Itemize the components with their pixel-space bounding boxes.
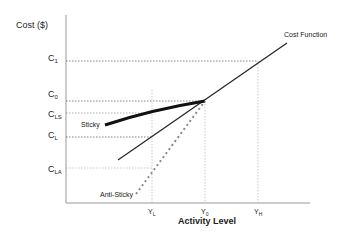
y-label-cla: CLA: [48, 164, 62, 175]
sticky-label: Sticky: [81, 121, 100, 129]
y-label-c1: C1: [48, 53, 59, 64]
x-label-yl: YL: [148, 208, 156, 217]
y-label-c0: C0: [48, 89, 59, 100]
cost-function-label: Cost Function: [284, 31, 327, 38]
y-label-cls: CLS: [48, 109, 62, 120]
cost-behavior-diagram: Cost ($) Activity Level C1 C0 CLS CL CLA…: [0, 0, 340, 241]
y-axis-title: Cost ($): [16, 20, 48, 30]
anti-sticky-label: Anti-Sticky: [100, 191, 134, 199]
anti-sticky-line: [136, 101, 205, 194]
x-label-yh: YH: [254, 208, 263, 217]
x-axis-title: Activity Level: [178, 216, 236, 226]
y-label-cl: CL: [48, 130, 59, 141]
